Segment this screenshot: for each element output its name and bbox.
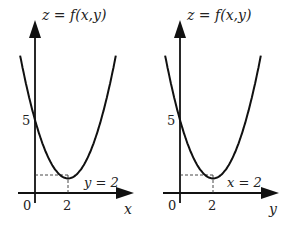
tick-label-2: 2	[208, 198, 216, 213]
panel-left: z = f(x,y) 5 0 2 x y = 2	[18, 7, 134, 217]
figure: z = f(x,y) 5 0 2 x y = 2 z = f(x,y) 5 0 …	[0, 0, 290, 231]
function-title: z = f(x,y)	[41, 7, 106, 23]
function-title: z = f(x,y)	[186, 7, 251, 23]
tick-label-2: 2	[63, 198, 71, 213]
intercept-label: 5	[167, 113, 175, 128]
horizontal-axis-label: x	[124, 201, 132, 217]
intercept-label: 5	[22, 113, 30, 128]
z-axis-arrow-icon	[174, 20, 186, 38]
z-axis-arrow-icon	[29, 20, 41, 38]
horizontal-axis-label: y	[268, 201, 278, 217]
horizontal-axis-arrow-icon	[261, 187, 279, 199]
origin-label: 0	[23, 198, 31, 213]
slice-label: x = 2	[227, 175, 262, 190]
slice-label: y = 2	[83, 175, 119, 190]
origin-label: 0	[168, 198, 176, 213]
panel-right: z = f(x,y) 5 0 2 y x = 2	[163, 7, 279, 217]
